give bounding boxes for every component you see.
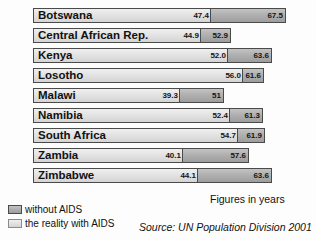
category-label: South Africa	[38, 128, 106, 143]
category-label: Botswana	[38, 8, 92, 23]
category-label: Losotho	[38, 68, 83, 83]
category-label: Zimbabwe	[38, 168, 94, 183]
legend-item-with-aids: the reality with AIDS	[8, 217, 158, 229]
value-label-without-aids: 63.6	[253, 169, 272, 182]
chart-row: Zambia40.157.6	[0, 146, 316, 166]
category-label: Zambia	[38, 148, 78, 163]
chart-row: Zimbabwe44.163.6	[0, 166, 316, 186]
value-label-with-aids: 52.0	[210, 49, 228, 62]
value-label-without-aids: 61.3	[244, 109, 263, 122]
legend-label-without-aids: without AIDS	[25, 204, 82, 215]
chart-row: Botswana47.467.5	[0, 6, 316, 26]
chart-legend: without AIDS the reality with AIDS	[8, 203, 158, 231]
value-label-without-aids: 57.6	[230, 149, 249, 162]
value-label-without-aids: 61.6	[245, 69, 264, 82]
legend-swatch-with-aids	[8, 219, 22, 228]
value-label-without-aids: 52.9	[212, 29, 231, 42]
chart-row: Malawi39.351	[0, 86, 316, 106]
chart-row: Kenya52.063.6	[0, 46, 316, 66]
value-label-with-aids: 52.4	[212, 109, 230, 122]
value-label-with-aids: 47.4	[193, 9, 211, 22]
category-label: Kenya	[38, 48, 73, 63]
category-label: Namibia	[38, 108, 83, 123]
category-label: Malawi	[38, 88, 76, 103]
value-label-without-aids: 67.5	[267, 9, 286, 22]
chart-container: Botswana47.467.5Central African Rep.44.9…	[0, 0, 316, 240]
legend-label-with-aids: the reality with AIDS	[25, 218, 114, 229]
value-label-with-aids: 44.9	[183, 29, 201, 42]
source-note: Source: UN Population Division 2001	[139, 221, 312, 233]
legend-swatch-without-aids	[8, 205, 22, 214]
value-label-with-aids: 39.3	[162, 89, 180, 102]
value-label-with-aids: 44.1	[180, 169, 198, 182]
chart-rows: Botswana47.467.5Central African Rep.44.9…	[0, 6, 316, 186]
value-label-without-aids: 63.6	[253, 49, 272, 62]
value-label-with-aids: 40.1	[165, 149, 183, 162]
chart-row: Namibia52.461.3	[0, 106, 316, 126]
value-label-without-aids: 61.9	[246, 129, 265, 142]
value-label-with-aids: 56.0	[225, 69, 243, 82]
legend-item-without-aids: without AIDS	[8, 203, 158, 215]
category-label: Central African Rep.	[38, 28, 148, 43]
chart-row: South Africa54.761.9	[0, 126, 316, 146]
value-label-with-aids: 54.7	[220, 129, 238, 142]
value-label-without-aids: 51	[212, 89, 224, 102]
chart-row: Losotho56.061.6	[0, 66, 316, 86]
figures-in-years-note: Figures in years	[210, 193, 285, 205]
chart-row: Central African Rep.44.952.9	[0, 26, 316, 46]
